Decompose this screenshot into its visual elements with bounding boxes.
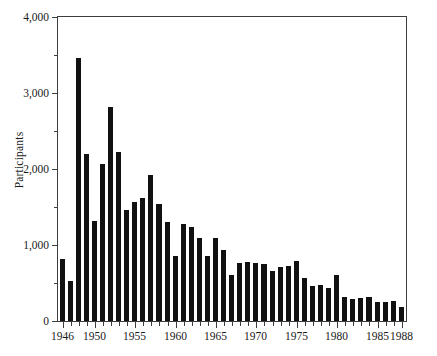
bar [253,263,258,321]
bar [391,301,396,321]
x-axis-tick-label: 1965 [204,330,227,342]
x-axis-minor-tick [208,321,209,326]
bar [92,221,97,321]
y-axis-tick-label: 4,000 [23,11,49,23]
y-axis-title-label: Participants [13,132,25,189]
bar [76,58,81,321]
bar [318,285,323,321]
x-axis-minor-tick [305,321,306,326]
bar [181,224,186,321]
y-axis-tick [52,169,59,170]
x-axis-tick [378,321,379,328]
y-axis-title: Participants [8,0,30,320]
x-axis-tick-label: 1975 [285,330,308,342]
x-axis-tick [216,321,217,328]
x-axis-minor-tick [386,321,387,326]
x-axis-minor-tick [200,321,201,326]
bar [197,238,202,321]
bar [189,227,194,321]
x-axis-tick [256,321,257,328]
bar [399,307,404,321]
x-axis-tick [337,321,338,328]
x-axis-minor-tick [329,321,330,326]
x-axis-minor-tick [248,321,249,326]
bar [148,175,153,321]
x-axis-tick [297,321,298,328]
bar [237,263,242,321]
bar [68,281,73,321]
x-axis-tick-label: 1980 [325,330,348,342]
x-axis-tick [95,321,96,328]
bar [116,152,121,321]
y-axis-tick [52,321,59,322]
x-axis-minor-tick [184,321,185,326]
y-axis-minor-tick [54,131,58,132]
x-axis-tick [176,321,177,328]
bar [270,271,275,321]
x-axis-minor-tick [313,321,314,326]
x-axis-minor-tick [192,321,193,326]
bar [221,250,226,321]
x-axis-tick [63,321,64,328]
y-axis-tick-label: 2,000 [23,163,49,175]
bar [245,262,250,321]
x-axis-tick-label: 1970 [244,330,267,342]
bar [358,298,363,321]
x-axis-tick [402,321,403,328]
bar [286,266,291,321]
bar [366,297,371,321]
x-axis-minor-tick [224,321,225,326]
plot-area: 01,0002,0003,0004,0001946195019551960196… [57,16,407,322]
x-axis-minor-tick [79,321,80,326]
x-axis-minor-tick [345,321,346,326]
x-axis-minor-tick [127,321,128,326]
bar [124,210,129,321]
bar [84,154,89,321]
bar-series [58,17,406,321]
bar-chart: Participants 01,0002,0003,0004,000194619… [0,0,437,356]
x-axis-minor-tick [159,321,160,326]
x-axis-minor-tick [240,321,241,326]
x-axis-minor-tick [273,321,274,326]
x-axis-tick-label: 1988 [390,330,413,342]
y-axis-tick-label: 0 [43,315,49,327]
bar [108,107,113,321]
x-axis-minor-tick [143,321,144,326]
x-axis-tick-label: 1946 [51,330,74,342]
y-axis-minor-tick [54,207,58,208]
x-axis-minor-tick [321,321,322,326]
bar [165,222,170,321]
bar [140,198,145,321]
x-axis-minor-tick [289,321,290,326]
bar [229,275,234,321]
bar [278,267,283,321]
x-axis-minor-tick [103,321,104,326]
bar [334,275,339,321]
bar [302,278,307,321]
x-axis-minor-tick [369,321,370,326]
bar [294,261,299,321]
bar [326,288,331,321]
bar [132,202,137,321]
x-axis-minor-tick [394,321,395,326]
y-axis-tick [52,17,59,18]
bar [173,256,178,321]
x-axis-minor-tick [353,321,354,326]
x-axis-minor-tick [264,321,265,326]
x-axis-tick-label: 1985 [366,330,389,342]
bar [342,297,347,321]
bar [213,238,218,321]
x-axis-tick-label: 1950 [83,330,106,342]
bar [60,259,65,321]
bar [205,256,210,321]
y-axis-minor-tick [54,55,58,56]
x-axis-minor-tick [151,321,152,326]
bar [350,299,355,321]
x-axis-minor-tick [168,321,169,326]
x-axis-tick-label: 1960 [164,330,187,342]
y-axis-minor-tick [54,283,58,284]
x-axis-minor-tick [71,321,72,326]
x-axis-minor-tick [111,321,112,326]
bar [375,302,380,321]
x-axis-minor-tick [232,321,233,326]
